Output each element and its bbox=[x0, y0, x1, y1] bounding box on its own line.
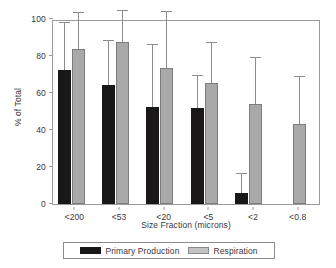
bar-rect[interactable] bbox=[205, 83, 218, 204]
error-bar-line bbox=[122, 11, 123, 42]
x-axis-label: Size Fraction (microns) bbox=[52, 220, 320, 230]
y-tick-label: 60 bbox=[1, 88, 46, 98]
legend-item[interactable]: Respiration bbox=[188, 246, 257, 256]
bar-rect[interactable] bbox=[191, 108, 204, 204]
error-bar-cap bbox=[117, 10, 128, 11]
y-tick-label: 20 bbox=[1, 162, 46, 172]
bar-chart-figure: % of Total 020406080100 <200<53<20<5<2<0… bbox=[0, 0, 336, 268]
bar-rect[interactable] bbox=[58, 70, 71, 204]
x-tick-mark bbox=[163, 207, 164, 210]
bar-rect[interactable] bbox=[116, 42, 129, 204]
error-bar-line bbox=[166, 12, 167, 68]
bar-group bbox=[142, 21, 186, 204]
y-axis-label: % of Total bbox=[13, 47, 23, 167]
y-tick-label: 100 bbox=[1, 14, 46, 24]
bar-group bbox=[230, 21, 274, 204]
bar-rect[interactable] bbox=[72, 49, 85, 204]
error-bar-cap bbox=[294, 76, 305, 77]
y-tick-label: 80 bbox=[1, 51, 46, 61]
error-bar-line bbox=[64, 23, 65, 70]
x-tick-mark bbox=[208, 207, 209, 210]
error-bar-line bbox=[197, 76, 198, 107]
plot-area: 020406080100 bbox=[52, 20, 320, 205]
bar-rect[interactable] bbox=[102, 85, 115, 205]
error-bar-line bbox=[152, 45, 153, 107]
error-bar-line bbox=[299, 77, 300, 124]
bar-group bbox=[53, 21, 97, 204]
bar-group bbox=[186, 21, 230, 204]
bar-rect[interactable] bbox=[293, 124, 306, 204]
bar-rect[interactable] bbox=[249, 104, 262, 204]
x-tick-mark bbox=[297, 207, 298, 210]
error-bar-line bbox=[108, 41, 109, 84]
error-bar-line bbox=[211, 43, 212, 83]
error-bar-cap bbox=[103, 40, 114, 41]
legend-swatch bbox=[188, 247, 209, 254]
error-bar-line bbox=[241, 174, 242, 193]
bar-group bbox=[275, 21, 319, 204]
bar-groups bbox=[53, 21, 319, 204]
error-bar-cap bbox=[161, 11, 172, 12]
bar-group bbox=[97, 21, 141, 204]
error-bar-cap bbox=[147, 44, 158, 45]
error-bar-cap bbox=[59, 22, 70, 23]
bar-rect[interactable] bbox=[160, 68, 173, 204]
bar-rect[interactable] bbox=[146, 107, 159, 204]
chart-legend: Primary ProductionRespiration bbox=[63, 242, 275, 259]
legend-swatch bbox=[80, 247, 101, 254]
bar-rect[interactable] bbox=[235, 193, 248, 204]
error-bar-cap bbox=[206, 42, 217, 43]
error-bar-cap bbox=[192, 75, 203, 76]
error-bar-cap bbox=[250, 57, 261, 58]
x-tick-mark bbox=[74, 207, 75, 210]
legend-label: Respiration bbox=[213, 246, 257, 256]
error-bar-line bbox=[78, 13, 79, 50]
legend-item[interactable]: Primary Production bbox=[80, 246, 179, 256]
error-bar-cap bbox=[236, 173, 247, 174]
y-tick-label: 40 bbox=[1, 125, 46, 135]
x-tick-mark bbox=[119, 207, 120, 210]
legend-label: Primary Production bbox=[105, 246, 179, 256]
y-tick-label: 0 bbox=[1, 199, 46, 209]
x-tick-mark bbox=[253, 207, 254, 210]
plot-inner: 020406080100 bbox=[53, 21, 319, 204]
error-bar-cap bbox=[73, 12, 84, 13]
y-tick-mark bbox=[49, 18, 53, 19]
error-bar-line bbox=[255, 58, 256, 103]
